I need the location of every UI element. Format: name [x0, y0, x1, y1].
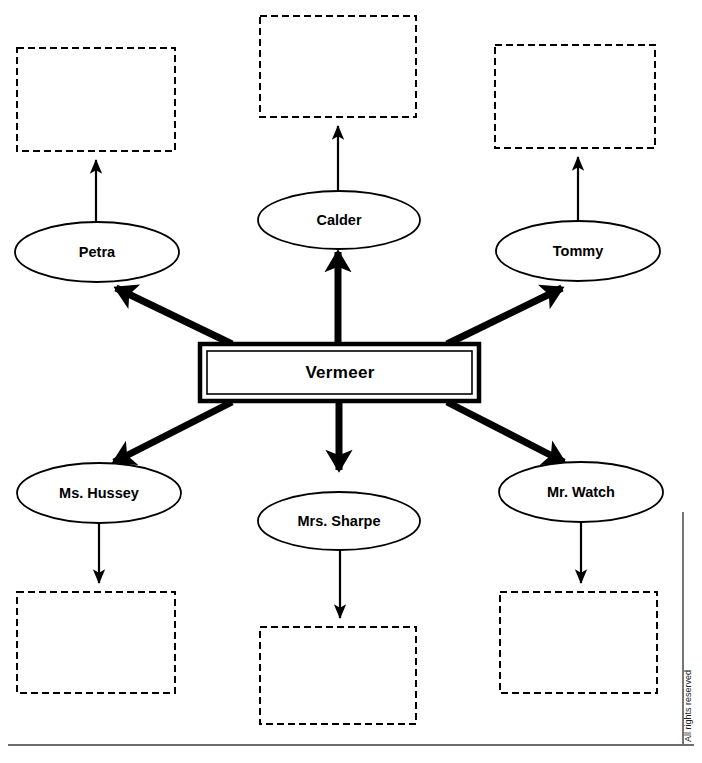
connector-vermeer-to-ms-hussey — [114, 402, 232, 462]
answer-box-ms-hussey[interactable] — [17, 592, 175, 693]
node-mrs-sharpe[interactable]: Mrs. Sharpe — [258, 492, 420, 550]
node-tommy[interactable]: Tommy — [496, 221, 660, 281]
answer-box-calder[interactable] — [260, 16, 416, 117]
copyright-notice: All rights reserved — [683, 670, 693, 742]
node-petra-label: Petra — [79, 244, 116, 260]
answer-box-petra[interactable] — [17, 48, 175, 151]
node-vermeer-label: Vermeer — [305, 363, 374, 382]
node-mr-watch-label: Mr. Watch — [547, 484, 615, 500]
connector-vermeer-to-petra — [116, 288, 232, 344]
answer-box-tommy[interactable] — [495, 45, 655, 148]
relationship-diagram: Petra Calder Tommy Ms. Hussey Mrs. Sharp… — [0, 0, 702, 763]
node-vermeer[interactable]: Vermeer — [200, 344, 479, 401]
node-calder[interactable]: Calder — [258, 191, 420, 249]
worksheet-page: Petra Calder Tommy Ms. Hussey Mrs. Sharp… — [0, 0, 702, 763]
node-mr-watch[interactable]: Mr. Watch — [499, 462, 663, 522]
node-ms-hussey[interactable]: Ms. Hussey — [17, 463, 181, 523]
answer-box-mrs-sharpe[interactable] — [260, 627, 416, 724]
node-ms-hussey-label: Ms. Hussey — [59, 485, 139, 501]
connector-vermeer-to-tommy — [447, 288, 562, 344]
node-petra[interactable]: Petra — [15, 222, 179, 282]
node-tommy-label: Tommy — [553, 243, 604, 259]
answer-box-mr-watch[interactable] — [500, 592, 657, 693]
connector-vermeer-to-mr-watch — [447, 402, 564, 462]
node-mrs-sharpe-label: Mrs. Sharpe — [298, 513, 381, 529]
node-calder-label: Calder — [316, 212, 361, 228]
